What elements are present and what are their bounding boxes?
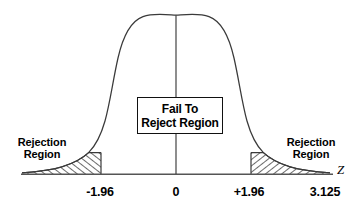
x-axis-name-label: Z — [337, 163, 344, 176]
x-tick-label-zero: 0 — [173, 186, 180, 199]
right-rejection-line-1: Rejection — [283, 137, 339, 149]
x-tick-label-max: 3.125 — [310, 186, 340, 199]
right-rejection-region-label: Rejection Region — [283, 137, 339, 160]
left-rejection-region-label: Rejection Region — [14, 137, 70, 160]
left-rejection-line-1: Rejection — [14, 137, 70, 149]
fail-to-reject-region-box: Fail To Reject Region — [137, 97, 223, 134]
x-tick-label-neg-critical: -1.96 — [86, 186, 114, 199]
fail-to-reject-line-1: Fail To — [162, 102, 198, 116]
normal-distribution-chart: Fail To Reject Region Rejection Region R… — [0, 0, 359, 211]
x-tick-label-pos-critical: +1.96 — [234, 186, 265, 199]
fail-to-reject-line-2: Reject Region — [141, 116, 218, 130]
right-rejection-line-2: Region — [283, 149, 339, 161]
left-rejection-line-2: Region — [14, 149, 70, 161]
